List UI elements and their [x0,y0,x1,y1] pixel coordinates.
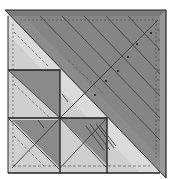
top-edge-band [5,10,166,16]
quilting-ruler-diagram [0,0,174,179]
right-edge-band [160,10,166,178]
